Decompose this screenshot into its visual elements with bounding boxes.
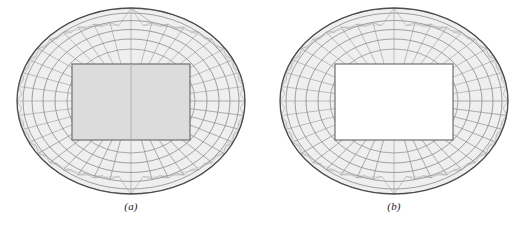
panel-b-opening — [335, 64, 453, 140]
panel-b-drawing — [263, 0, 525, 205]
panel-b-caption: (b) — [263, 200, 525, 212]
figure-panel-b: (b) — [263, 0, 525, 231]
figure-page: (a) — [0, 0, 525, 231]
panel-a-drawing — [0, 0, 262, 205]
figure-panel-a: (a) — [0, 0, 262, 231]
panel-a-caption: (a) — [0, 200, 262, 212]
panel-a-opening — [72, 64, 190, 140]
